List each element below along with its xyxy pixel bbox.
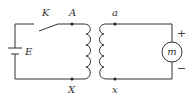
label-node-A: A: [68, 7, 76, 18]
label-node-x: x: [112, 84, 118, 95]
label-meter-plus: +: [177, 27, 186, 40]
primary-circuit: [8, 24, 91, 79]
battery-symbol: [8, 48, 22, 54]
wire-top-secondary: [106, 24, 172, 42]
node-x: [114, 78, 117, 81]
node-a: [114, 23, 117, 26]
wire-bottom-secondary: [106, 62, 172, 79]
node-X: [71, 78, 74, 81]
switch-blade[interactable]: [39, 24, 58, 31]
label-battery-E: E: [24, 46, 33, 57]
label-switch-K: K: [41, 7, 50, 18]
circuit-diagram: K A a E X x m + −: [0, 0, 194, 103]
label-node-a: a: [112, 7, 118, 18]
primary-coil: [84, 24, 91, 79]
secondary-coil: [100, 24, 107, 79]
label-meter-m: m: [167, 46, 176, 57]
label-meter-minus: −: [177, 62, 186, 75]
node-A: [71, 23, 74, 26]
label-node-X: X: [67, 84, 76, 95]
